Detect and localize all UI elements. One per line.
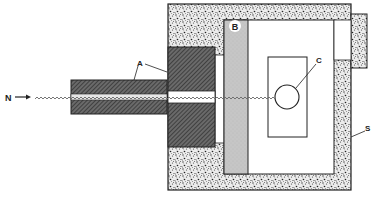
diagram: B N A C S bbox=[0, 0, 375, 200]
label-n: N bbox=[5, 93, 12, 103]
sample-c bbox=[275, 85, 299, 109]
arrow-head-icon bbox=[26, 95, 31, 100]
label-s: S bbox=[365, 124, 371, 133]
label-c: C bbox=[316, 56, 322, 65]
label-b: B bbox=[232, 22, 239, 32]
label-a: A bbox=[137, 59, 143, 68]
